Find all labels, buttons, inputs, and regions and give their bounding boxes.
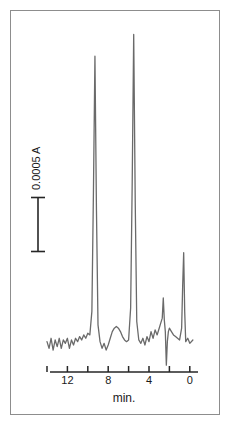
x-axis-title: min. [84, 391, 164, 405]
x-axis-tick-label: 8 [98, 374, 118, 386]
y-scale-bar-label: 0.0005 A [30, 147, 42, 190]
x-axis-tick-label: 0 [180, 374, 200, 386]
y-scale-bar-label-wrapper: 0.0005 A [30, 120, 50, 190]
x-axis-tick-label: 4 [139, 374, 159, 386]
chromatogram-figure: 12840 min. 0.0005 A [0, 0, 232, 427]
x-axis-tick-label: 12 [57, 374, 77, 386]
figure-frame [10, 10, 220, 415]
